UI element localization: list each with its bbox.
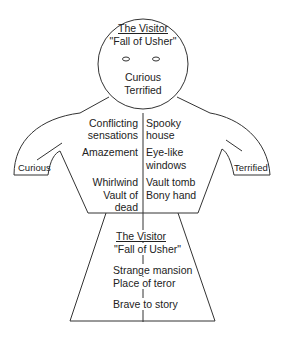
skirt-line-2: Place of teror (113, 277, 175, 289)
left-eye-icon (123, 57, 130, 61)
head-feeling-1: Curious (103, 71, 183, 83)
torso-left-3: Amazement (70, 146, 138, 158)
torso-left-6: dead (70, 201, 138, 213)
torso-right-2: house (146, 129, 175, 141)
right-eye-icon (153, 57, 160, 61)
right-hand-label: Terrified (234, 162, 268, 173)
head-title: The Visitor (103, 22, 183, 34)
head-feeling-2: Terrified (103, 84, 183, 96)
torso-right-5: Vault tomb (146, 176, 195, 188)
skirt-line-3: Brave to story (113, 298, 178, 310)
torso-right-4: windows (146, 159, 186, 171)
shirt-outline (14, 97, 270, 213)
torso-left-4: Whirlwind (70, 176, 138, 188)
torso-right-1: Spooky (146, 117, 181, 129)
torso-left-5: Vault of (70, 189, 138, 201)
torso-right-6: Bony hand (146, 189, 196, 201)
skirt-subtitle: "Fall of Usher" (114, 243, 181, 255)
head-subtitle: "Fall of Usher" (98, 35, 188, 47)
torso-left-2: sensations (70, 129, 138, 141)
skirt-line-1: Strange mansion (113, 264, 192, 276)
torso-right-3: Eye-like (146, 146, 183, 158)
left-hand-label: Curious (18, 162, 51, 173)
torso-left-1: Conflicting (70, 117, 138, 129)
skirt-title: The Visitor (116, 230, 166, 242)
